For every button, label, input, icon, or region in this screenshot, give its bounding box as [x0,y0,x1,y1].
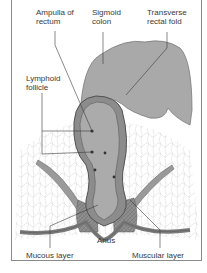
rectum-illustration [0,0,207,273]
label-lymphoid-follicle: Lymphoid follicle [26,74,60,92]
label-ampulla-of-rectum: Ampulla of rectum [36,8,74,26]
label-mucous-layer: Mucous layer [26,251,74,260]
label-anus: Anus [97,236,115,245]
label-sigmoid-colon: Sigmoid colon [92,8,121,26]
label-muscular-layer: Muscular layer [132,251,184,260]
label-transverse-rectal-fold: Transverse rectal fold [147,8,187,26]
